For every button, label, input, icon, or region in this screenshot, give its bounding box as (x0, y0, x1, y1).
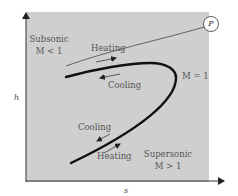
sonic-point-marker (175, 75, 178, 78)
nose-label: M = 1 (182, 72, 209, 81)
supersonic-condition: M > 1 (155, 162, 182, 171)
lower-heating-label: Heating (97, 152, 132, 161)
lower-cooling-label: Cooling (78, 123, 111, 132)
supersonic-title: Supersonic (144, 150, 192, 159)
rayleigh-line-diagram (0, 0, 238, 196)
subsonic-title: Subsonic (29, 35, 68, 44)
y-axis-label: h (14, 94, 19, 102)
upper-cooling-label: Cooling (108, 81, 141, 90)
subsonic-condition: M < 1 (36, 47, 63, 56)
x-axis-label: s (124, 187, 128, 195)
point-p-label: P (208, 20, 213, 28)
upper-heating-label: Heating (91, 44, 126, 53)
